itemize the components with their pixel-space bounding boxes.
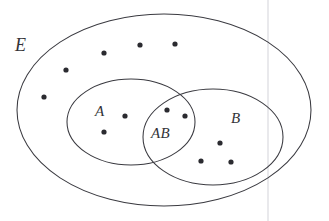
element-dot — [228, 159, 233, 164]
set-b-label: B — [231, 111, 241, 126]
element-dot — [101, 50, 106, 55]
set-a-ellipse-outline — [67, 79, 195, 165]
element-dot — [198, 158, 203, 163]
venn-diagram-figure: E A B AB — [0, 0, 329, 221]
scan-artifact-line — [267, 0, 269, 221]
element-dots-intersection-ab — [164, 107, 187, 118]
venn-diagram-canvas — [0, 0, 329, 221]
element-dot — [63, 67, 68, 72]
element-dot — [41, 94, 46, 99]
universe-ellipse-outline — [17, 14, 311, 206]
element-dot — [101, 129, 106, 134]
intersection-ab-label: AB — [151, 126, 170, 141]
element-dot — [172, 41, 177, 46]
element-dots-set-a-only — [101, 113, 127, 134]
set-a-label: A — [95, 104, 105, 119]
element-dot — [122, 113, 127, 118]
element-dots-universe-only — [41, 41, 177, 99]
element-dot — [137, 42, 142, 47]
element-dot — [217, 140, 222, 145]
element-dot — [182, 113, 187, 118]
element-dot — [164, 107, 169, 112]
element-dots-set-b-only — [198, 140, 233, 164]
universe-set-label: E — [15, 36, 26, 54]
